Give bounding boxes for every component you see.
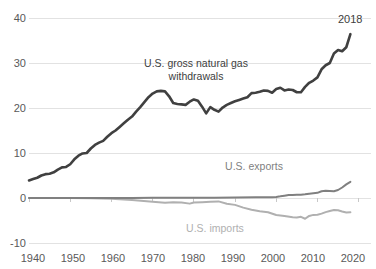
- natural-gas-chart: 40 30 20 10 0 -10 1940 1950 1960 1970 19…: [0, 0, 376, 269]
- withdrawals-label-line2: withdrawals: [116, 70, 276, 83]
- series-line: [29, 198, 350, 219]
- x-tick-1950: 1950: [53, 253, 93, 264]
- gridlines: [29, 18, 371, 243]
- exports-series-label: U.S. exports: [205, 160, 303, 173]
- x-tick-1940: 1940: [13, 253, 53, 264]
- x-tick-1970: 1970: [133, 253, 173, 264]
- x-tick-2000: 2000: [253, 253, 293, 264]
- y-tick-40: 40: [0, 13, 26, 24]
- series-line: [29, 182, 350, 198]
- x-tick-1990: 1990: [213, 253, 253, 264]
- y-tick-30: 30: [0, 58, 26, 69]
- y-tick-10: 10: [0, 148, 26, 159]
- x-tick-2020: 2020: [333, 253, 373, 264]
- x-tick-2010: 2010: [293, 253, 333, 264]
- x-tick-1960: 1960: [93, 253, 133, 264]
- end-year-label: 2018: [338, 13, 362, 25]
- y-tick-minus10: -10: [0, 238, 26, 249]
- withdrawals-series-label: U.S. gross natural gas withdrawals: [116, 57, 276, 82]
- imports-series-label: U.S. imports: [160, 222, 270, 235]
- x-tick-1980: 1980: [173, 253, 213, 264]
- y-tick-20: 20: [0, 103, 26, 114]
- withdrawals-label-line1: U.S. gross natural gas: [116, 57, 276, 70]
- y-tick-0: 0: [0, 193, 26, 204]
